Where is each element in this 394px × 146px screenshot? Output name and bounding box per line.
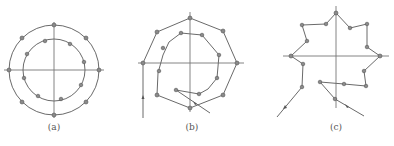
panel-a-caption: (a) [34, 122, 74, 132]
panel-b-caption: (b) [172, 122, 212, 132]
panel-c-caption: (c) [316, 122, 356, 132]
panel-a [4, 22, 104, 118]
panel-b [138, 12, 244, 118]
panel-c-star-path [277, 13, 380, 117]
panel-b-entry-arrow-icon [142, 95, 145, 99]
panel-c [277, 6, 389, 117]
